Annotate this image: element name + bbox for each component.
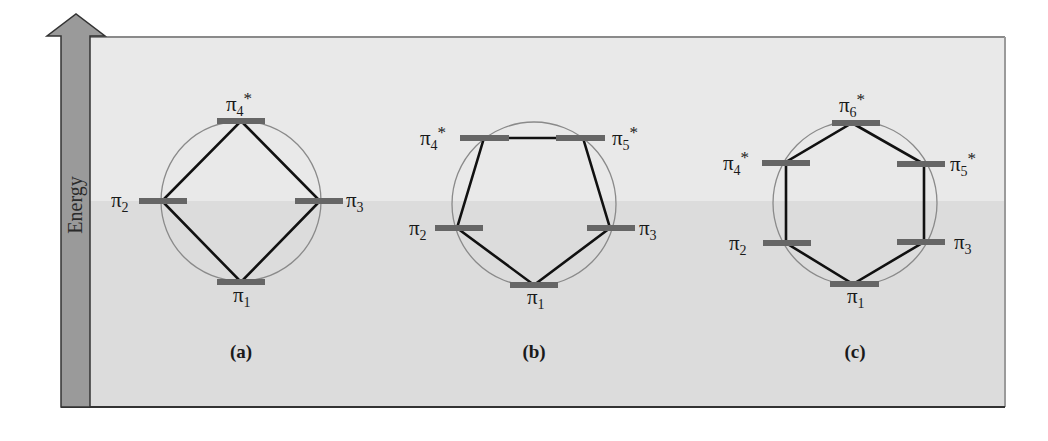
level-bar-pi5 — [897, 161, 945, 167]
level-bar-pi4 — [762, 160, 810, 166]
level-bar-pi3 — [295, 198, 343, 204]
level-bar-pi2 — [435, 225, 483, 231]
panel-caption-b: (b) — [522, 341, 545, 363]
panel-caption-a: (a) — [230, 341, 252, 363]
level-bar-pi3 — [587, 225, 635, 231]
level-bar-pi5 — [556, 135, 605, 141]
level-bar-pi6 — [832, 120, 880, 126]
level-bar-pi3 — [897, 239, 945, 245]
panel-caption-c: (c) — [844, 341, 865, 363]
level-bar-pi2 — [763, 240, 811, 246]
lower-band — [90, 201, 1005, 407]
energy-axis-label: Energy — [64, 176, 87, 233]
frost-circle-figure: Energy π4* π2 π3 π1 (a) π4* π5* π2 π — [0, 0, 1048, 441]
level-bar-pi2 — [139, 198, 187, 204]
level-bar-pi4 — [460, 135, 509, 141]
